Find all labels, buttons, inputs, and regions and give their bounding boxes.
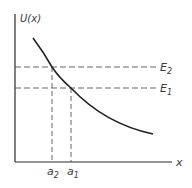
level-e1-label: E1 <box>160 82 172 97</box>
potential-energy-diagram: U(x) x E2 E1 a2 a1 <box>0 0 192 188</box>
x-axis-label: x <box>175 156 183 169</box>
level-e2-label: E2 <box>160 61 172 76</box>
potential-curve <box>33 38 153 134</box>
point-a1-label: a1 <box>67 165 79 180</box>
y-axis-label: U(x) <box>20 13 41 24</box>
point-a2-label: a2 <box>47 165 59 180</box>
